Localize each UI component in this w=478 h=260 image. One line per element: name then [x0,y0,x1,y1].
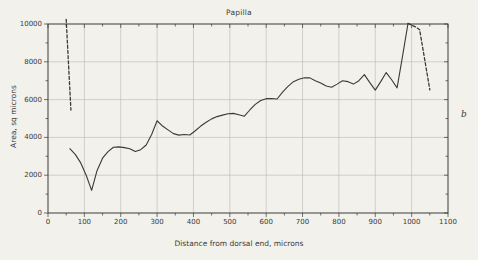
x-tick-label: 900 [355,218,395,226]
x-tick-label: 400 [173,218,213,226]
grid-lines [48,24,448,213]
x-tick-label: 300 [137,218,177,226]
y-tick-label: 10000 [2,20,42,28]
series-papilla-area-dashed-right [408,23,430,89]
x-tick-label: 700 [283,218,323,226]
x-tick-label: 1100 [428,218,468,226]
x-tick-label: 600 [246,218,286,226]
x-tick-label: 100 [64,218,104,226]
y-tick-label: 0 [2,209,42,217]
axis-frame [48,24,448,213]
y-axis-title: Area, sq microns [9,57,18,177]
x-axis-title: Distance from dorsal end, microns [0,239,478,248]
axis-ticks [44,24,448,217]
panel-letter-label: b [461,109,467,119]
x-tick-label: 200 [101,218,141,226]
x-tick-label: 0 [28,218,68,226]
x-tick-label: 1000 [392,218,432,226]
x-tick-label: 800 [319,218,359,226]
figure-panel: Papilla 01002003004005006007008009001000… [0,0,478,260]
x-tick-label: 500 [210,218,250,226]
series-papilla-area-dashed-left [66,19,71,110]
